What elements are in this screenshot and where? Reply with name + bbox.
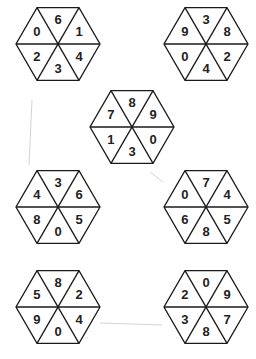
segment-digit-bottom: 0	[54, 324, 61, 339]
segment-digit-lower-right: 5	[75, 212, 82, 227]
segment-digit-upper-left: 2	[181, 287, 188, 302]
hex-mid-right: 745860	[164, 171, 248, 244]
segment-digit-upper-left: 5	[33, 287, 40, 302]
segment-digit-upper-right: 8	[223, 24, 230, 39]
hex-top-right: 382409	[164, 8, 248, 81]
segment-digit-upper-left: 0	[181, 187, 188, 202]
hex-middle: 890317	[90, 91, 174, 164]
hex-bottom-left: 824095	[16, 271, 100, 344]
segment-digit-lower-right: 2	[223, 49, 230, 64]
segment-digit-top: 8	[128, 95, 135, 110]
segment-digit-lower-left: 6	[181, 212, 188, 227]
segment-digit-upper-left: 7	[107, 107, 114, 122]
segment-digit-top: 0	[202, 275, 209, 290]
hex-bottom-right: 097832	[164, 271, 248, 344]
segment-digit-bottom: 3	[54, 61, 61, 76]
segment-digit-top: 7	[202, 175, 209, 190]
segment-digit-upper-right: 9	[149, 107, 156, 122]
segment-digit-top: 8	[54, 275, 61, 290]
segment-digit-upper-left: 0	[33, 24, 40, 39]
hex-top-left: 614320	[16, 8, 100, 81]
segment-digit-upper-right: 2	[75, 287, 82, 302]
segment-digit-lower-left: 0	[181, 49, 188, 64]
segment-digit-top: 3	[202, 12, 209, 27]
segment-digit-bottom: 0	[54, 224, 61, 239]
segment-digit-upper-right: 4	[223, 187, 231, 202]
segment-digit-lower-left: 2	[33, 49, 40, 64]
segment-digit-lower-left: 3	[181, 312, 188, 327]
hexagon-puzzle-diagram: 6143203824098903173650847458608240950978…	[0, 0, 256, 359]
segment-digit-bottom: 8	[202, 324, 209, 339]
segment-digit-top: 6	[54, 12, 61, 27]
segment-digit-lower-left: 9	[33, 312, 40, 327]
segment-digit-lower-right: 5	[223, 212, 230, 227]
segment-digit-bottom: 8	[202, 224, 209, 239]
segment-digit-upper-left: 4	[33, 187, 41, 202]
segment-digit-lower-right: 7	[223, 312, 230, 327]
segment-digit-lower-left: 1	[107, 132, 114, 147]
segment-digit-upper-right: 6	[75, 187, 82, 202]
segment-digit-lower-left: 8	[33, 212, 40, 227]
segment-digit-lower-right: 0	[149, 132, 156, 147]
segment-digit-lower-right: 4	[75, 49, 83, 64]
segment-digit-top: 3	[54, 175, 61, 190]
segment-digit-bottom: 3	[128, 144, 135, 159]
hex-mid-left: 365084	[16, 171, 100, 244]
segment-digit-upper-left: 9	[181, 24, 188, 39]
segment-digit-lower-right: 4	[75, 312, 83, 327]
segment-digit-bottom: 4	[202, 61, 210, 76]
segment-digit-upper-right: 1	[75, 24, 82, 39]
segment-digit-upper-right: 9	[223, 287, 230, 302]
